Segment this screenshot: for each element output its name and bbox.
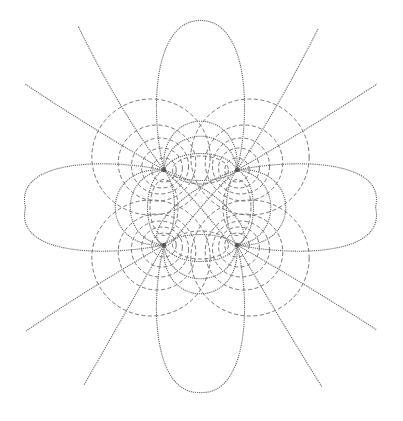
- equipotential-ring: [118, 214, 196, 290]
- equipotential-ring: [212, 138, 269, 194]
- equipotential-ring: [131, 221, 188, 277]
- equipotential-ring: [205, 214, 283, 290]
- field-line-radial: [78, 26, 164, 170]
- charge-top-left: [162, 168, 166, 172]
- field-line-mid-top: [164, 121, 237, 170]
- field-line-bottom-lobe: [156, 245, 244, 393]
- field-line-top-lobe: [156, 20, 244, 170]
- field-line-mid-bottom: [164, 245, 237, 294]
- field-line-right-lobe: [237, 164, 377, 251]
- field-line-radial: [237, 84, 377, 170]
- field-line-radial: [25, 84, 164, 170]
- charge-bottom-left: [162, 243, 166, 247]
- equipotential-inner: [173, 231, 229, 259]
- field-diagram: [0, 0, 403, 421]
- field-line-radial: [84, 245, 164, 385]
- field-line-left-lobe: [24, 164, 164, 251]
- equipotential-ring: [131, 138, 188, 194]
- equipotential-ring: [212, 221, 269, 277]
- equipotential-inner: [173, 156, 229, 184]
- equipotential-lines: [92, 99, 309, 316]
- field-lines: [24, 20, 377, 392]
- charge-bottom-right: [235, 243, 239, 247]
- charge-top-right: [235, 168, 239, 172]
